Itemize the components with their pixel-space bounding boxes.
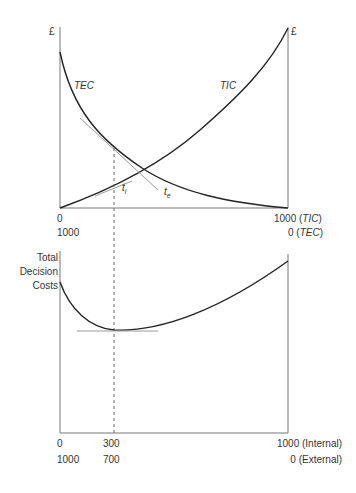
top-x-left-label-2: 1000: [57, 227, 79, 239]
top-left-pound-symbol: £: [49, 26, 55, 38]
bottom-x-mid-label-2: 700: [103, 454, 120, 466]
tic-curve: [60, 28, 288, 208]
te-label: te: [164, 186, 171, 202]
bottom-x-right-label-1: 1000 (Internal): [277, 438, 342, 450]
bottom-x-mid-label-1: 300: [103, 438, 120, 450]
bottom-x-right-label-2: 0 (External): [290, 454, 342, 466]
bottom-x-left-label-2: 1000: [57, 454, 79, 466]
te-label-sub: e: [167, 192, 171, 199]
tec-axis-name: TEC: [300, 227, 320, 238]
top-x-left-label-1: 0: [57, 213, 63, 225]
top-right-pound-symbol: £: [291, 26, 297, 38]
top-x-right-label-2: 0 (TEC): [288, 227, 323, 239]
top-x-right-label-1: 1000 (TIC): [274, 213, 322, 225]
tec-curve: [60, 52, 288, 208]
y-label-line-3: Costs: [20, 279, 58, 293]
bottom-y-label: Total Decision Costs: [20, 251, 58, 293]
bottom-x-left-label-1: 0: [57, 438, 63, 450]
tec-min-value: 0 (: [288, 227, 300, 238]
total-decision-cost-curve: [60, 261, 288, 330]
tec-close-paren: ): [320, 227, 323, 238]
tic-axis-name: TIC: [302, 213, 318, 224]
tic-label: TIC: [220, 80, 236, 92]
y-label-line-1: Total: [20, 251, 58, 265]
te-tangent-line: [80, 118, 158, 190]
ti-label: ti: [122, 182, 126, 198]
tec-label: TEC: [74, 80, 94, 92]
tic-max-value: 1000 (: [274, 213, 302, 224]
tic-close-paren: ): [318, 213, 321, 224]
ti-label-sub: i: [125, 188, 127, 195]
ti-tangent-line: [95, 181, 132, 196]
y-label-line-2: Decision: [20, 265, 58, 279]
diagram-canvas: [0, 0, 356, 493]
